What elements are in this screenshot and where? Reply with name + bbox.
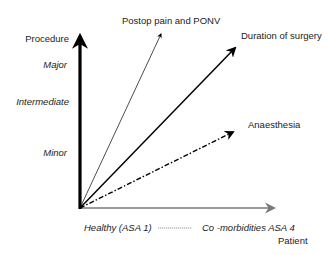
y-level-minor: Minor bbox=[0, 147, 67, 159]
risk-factor-diagram: Procedure Major Intermediate Minor Posto… bbox=[0, 0, 331, 255]
postop-pain-vector bbox=[80, 34, 161, 208]
postop-pain-label: Postop pain and PONV bbox=[122, 15, 220, 27]
anaesthesia-label: Anaesthesia bbox=[248, 119, 300, 131]
x-end-label: Co -morbidities ASA 4 bbox=[202, 222, 295, 234]
anaesthesia-vector bbox=[80, 132, 233, 208]
x-axis-title: Patient bbox=[278, 235, 308, 247]
y-level-intermediate: Intermediate bbox=[0, 96, 69, 108]
y-level-major: Major bbox=[0, 59, 67, 71]
duration-of-surgery-label: Duration of surgery bbox=[241, 30, 322, 42]
duration-of-surgery-vector bbox=[80, 48, 235, 208]
y-axis-title: Procedure bbox=[0, 33, 69, 45]
x-start-label: Healthy (ASA 1) bbox=[84, 222, 152, 234]
